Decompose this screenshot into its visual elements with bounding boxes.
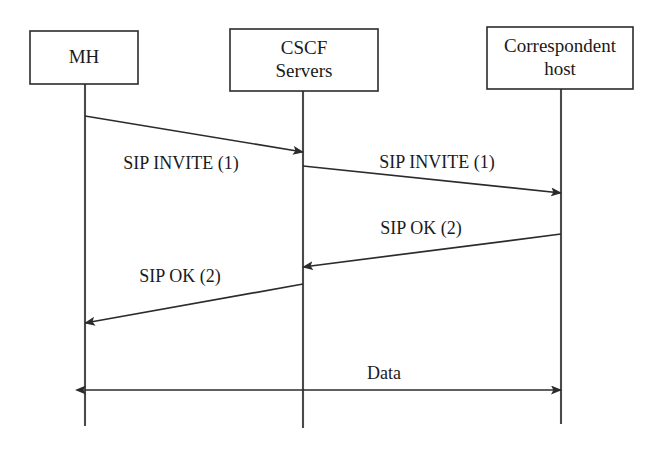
- message-label-m1: SIP INVITE (1): [123, 153, 238, 174]
- sequence-diagram: MHCSCFServersCorrespondenthost SIP INVIT…: [0, 0, 661, 451]
- participant-label-correspondent: Correspondent: [504, 35, 617, 56]
- message-label-m4: SIP OK (2): [139, 266, 220, 287]
- message-label-m2: SIP INVITE (1): [379, 152, 494, 173]
- message-label-m3: SIP OK (2): [380, 218, 461, 239]
- participant-correspondent[interactable]: Correspondenthost: [487, 27, 633, 89]
- message-label-m5: Data: [367, 363, 401, 383]
- participant-cscf[interactable]: CSCFServers: [230, 29, 378, 91]
- lifelines-layer: [85, 84, 561, 428]
- message-labels-layer: SIP INVITE (1)SIP INVITE (1)SIP OK (2)SI…: [123, 152, 494, 383]
- participant-label-mh: MH: [69, 46, 100, 67]
- participant-label-cscf: CSCF: [281, 37, 327, 58]
- message-arrow-m3[interactable]: [303, 234, 561, 267]
- message-arrow-m4[interactable]: [85, 284, 303, 323]
- participant-label-correspondent: host: [544, 58, 576, 79]
- participant-label-cscf: Servers: [276, 60, 333, 81]
- participant-boxes-layer: MHCSCFServersCorrespondenthost: [30, 27, 633, 91]
- message-arrow-m1[interactable]: [85, 116, 303, 152]
- sequence-diagram-canvas: MHCSCFServersCorrespondenthost SIP INVIT…: [0, 0, 661, 451]
- participant-mh[interactable]: MH: [30, 31, 138, 84]
